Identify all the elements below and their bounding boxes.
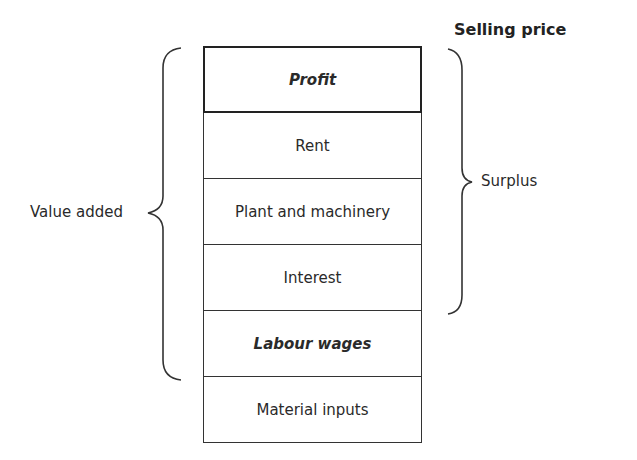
- value-added-label: Value added: [30, 203, 123, 221]
- surplus-brace-icon: [448, 49, 472, 314]
- row-labour-wages: Labour wages: [203, 311, 422, 377]
- row-material-inputs: Material inputs: [203, 377, 422, 443]
- row-interest: Interest: [203, 245, 422, 311]
- row-rent: Rent: [203, 113, 422, 179]
- price-stack: Profit Rent Plant and machinery Interest…: [203, 46, 422, 443]
- row-plant-and-machinery: Plant and machinery: [203, 179, 422, 245]
- surplus-label: Surplus: [481, 172, 537, 190]
- value-added-brace-icon: [148, 48, 181, 380]
- row-profit: Profit: [203, 46, 422, 113]
